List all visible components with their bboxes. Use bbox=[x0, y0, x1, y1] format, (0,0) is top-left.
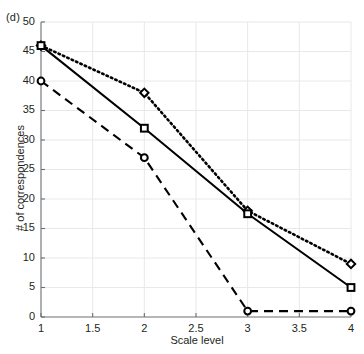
data-point-marker bbox=[348, 284, 355, 291]
data-point-marker bbox=[141, 125, 148, 132]
svg-text:0: 0 bbox=[29, 310, 35, 322]
svg-text:1: 1 bbox=[38, 322, 44, 334]
svg-text:5: 5 bbox=[29, 280, 35, 292]
chart-figure: (d) # of correspondences Scale level 051… bbox=[0, 0, 364, 354]
svg-text:40: 40 bbox=[23, 74, 35, 86]
svg-text:30: 30 bbox=[23, 133, 35, 145]
svg-text:3.5: 3.5 bbox=[292, 322, 307, 334]
svg-text:25: 25 bbox=[23, 162, 35, 174]
svg-text:3: 3 bbox=[245, 322, 251, 334]
svg-text:35: 35 bbox=[23, 103, 35, 115]
tick-labels: 0510152025303540455011.522.533.54 bbox=[23, 15, 354, 334]
svg-text:10: 10 bbox=[23, 251, 35, 263]
data-point-marker bbox=[348, 308, 355, 315]
data-point-marker bbox=[141, 154, 148, 161]
data-point-marker bbox=[38, 42, 45, 49]
svg-text:15: 15 bbox=[23, 221, 35, 233]
svg-text:1.5: 1.5 bbox=[85, 322, 100, 334]
svg-text:45: 45 bbox=[23, 44, 35, 56]
svg-text:2: 2 bbox=[141, 322, 147, 334]
svg-text:2.5: 2.5 bbox=[188, 322, 203, 334]
plot-area: 0510152025303540455011.522.533.54 bbox=[0, 0, 364, 354]
data-point-marker bbox=[244, 210, 251, 217]
data-point-marker bbox=[347, 260, 355, 268]
svg-text:20: 20 bbox=[23, 192, 35, 204]
data-point-marker bbox=[38, 78, 45, 85]
svg-text:50: 50 bbox=[23, 15, 35, 27]
data-point-marker bbox=[244, 308, 251, 315]
grid-lines bbox=[41, 22, 351, 317]
svg-text:4: 4 bbox=[348, 322, 354, 334]
